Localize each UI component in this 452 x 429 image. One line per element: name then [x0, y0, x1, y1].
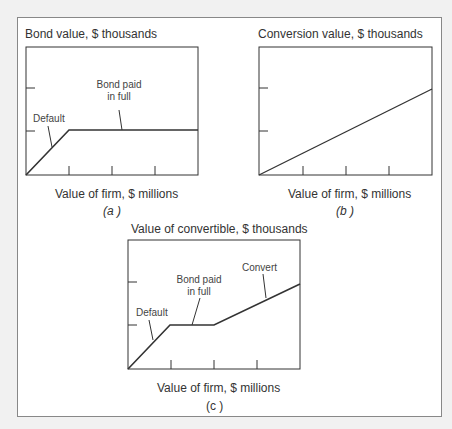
panel-a-xlabel: Value of firm, $ millions — [55, 187, 178, 201]
panel-c-caption: (c ) — [206, 399, 223, 413]
panel-c-xlabel: Value of firm, $ millions — [157, 381, 280, 395]
panel-a-axes — [26, 47, 198, 175]
panel-b-line — [259, 89, 432, 175]
panel-a-default-label: Default — [33, 113, 65, 125]
panel-a-paid-label: Bond paidin full — [94, 79, 144, 103]
panel-a-ylabel: Bond value, $ thousands — [25, 27, 157, 41]
panel-b-caption: (b ) — [336, 204, 354, 218]
panel-b-xlabel: Value of firm, $ millions — [288, 187, 411, 201]
panel-c-axes — [128, 240, 300, 369]
panel-b-axes — [259, 47, 432, 175]
panel-c-default-label: Default — [136, 307, 168, 319]
panel-a-caption: (a ) — [103, 204, 121, 218]
charts-svg — [0, 0, 452, 429]
panel-c-ylabel: Value of convertible, $ thousands — [131, 222, 308, 236]
panel-c-paid-label: Bond paidin full — [174, 274, 224, 298]
panel-c-convert-label: Convert — [242, 262, 277, 274]
panel-b-ylabel: Conversion value, $ thousands — [258, 27, 423, 41]
